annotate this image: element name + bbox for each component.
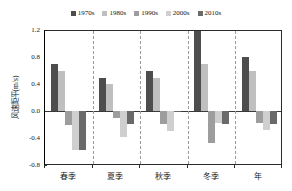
x-tick-label-秋季: 秋季 [155,170,171,181]
bar-1980s-冬季[interactable] [201,64,208,111]
bar-1980s-夏季[interactable] [106,84,113,111]
x-tick-mark [281,165,282,168]
x-tick-label-年: 年 [254,170,262,181]
x-tick-mark [187,165,188,168]
bar-slot [160,31,167,164]
bar-1970s-夏季[interactable] [99,78,106,111]
bar-1990s-冬季[interactable] [208,111,215,144]
chart-legend: 1970s1980s1990s2000s2010s [0,7,292,19]
bar-slot [58,31,65,164]
bar-slot [194,31,201,164]
bar-slot [215,31,222,164]
bar-slot [256,31,263,164]
bar-slot [242,31,249,164]
legend-label: 2010s [205,10,222,17]
legend-swatch-icon [134,11,139,16]
bar-1970s-春季[interactable] [51,64,58,111]
bar-2000s-冬季[interactable] [215,111,222,123]
bar-2000s-夏季[interactable] [120,111,127,138]
plot-inner [45,31,281,164]
bar-2010s-年[interactable] [270,111,277,124]
y-tick-label: 0.0 [16,108,40,115]
x-tick-label-春季: 春季 [60,170,76,181]
bar-slot [51,31,58,164]
legend-swatch-icon [198,11,203,16]
legend-label: 1990s [141,10,158,17]
bar-1990s-年[interactable] [256,111,263,124]
legend-item-2010s[interactable]: 2010s [198,10,222,17]
y-tick-label: -0.4 [16,135,40,142]
bar-slot [146,31,153,164]
bar-slot [127,31,134,164]
x-tick-mark [44,165,45,168]
bar-1970s-秋季[interactable] [146,71,153,111]
bar-1990s-春季[interactable] [65,111,72,125]
bar-1980s-春季[interactable] [58,71,65,111]
bar-2000s-春季[interactable] [72,111,79,150]
bar-group-冬季 [188,31,236,164]
x-tick-mark [234,165,235,168]
bar-1970s-年[interactable] [242,57,249,111]
bar-2010s-冬季[interactable] [222,111,229,124]
x-tick-mark [139,165,140,168]
y-tick-label: -0.8 [16,162,40,169]
bar-2010s-夏季[interactable] [127,111,134,124]
legend-swatch-icon [71,11,76,16]
bar-2000s-秋季[interactable] [167,111,174,131]
bar-group-夏季 [93,31,141,164]
legend-item-1990s[interactable]: 1990s [134,10,158,17]
legend-swatch-icon [166,11,171,16]
bar-slot [113,31,120,164]
bar-group-秋季 [140,31,188,164]
legend-label: 1980s [109,10,126,17]
bar-slot [270,31,277,164]
legend-label: 1970s [78,10,95,17]
bar-slot [249,31,256,164]
bar-slot [79,31,86,164]
legend-item-2000s[interactable]: 2000s [166,10,190,17]
bar-1980s-秋季[interactable] [153,78,160,111]
bar-slot [153,31,160,164]
bar-slot [201,31,208,164]
bar-2010s-秋季[interactable] [174,111,181,112]
y-tick-label: 1.2 [16,27,40,34]
legend-swatch-icon [102,11,107,16]
bar-slot [65,31,72,164]
bar-slot [99,31,106,164]
bar-2000s-年[interactable] [263,111,270,130]
x-axis-tick-marks [44,165,282,169]
bar-2010s-春季[interactable] [79,111,86,150]
bar-slot [120,31,127,164]
bar-slot [222,31,229,164]
bar-1990s-秋季[interactable] [160,111,167,124]
legend-item-1970s[interactable]: 1970s [71,10,95,17]
bar-slot [167,31,174,164]
bar-slot [208,31,215,164]
x-tick-label-夏季: 夏季 [107,170,123,181]
legend-item-1980s[interactable]: 1980s [102,10,126,17]
x-tick-label-冬季: 冬季 [203,170,219,181]
y-tick-label: 0.4 [16,81,40,88]
bar-slot [174,31,181,164]
x-axis-tick-labels: 春季夏季秋季冬季年 [44,170,282,186]
bar-group-春季 [45,31,93,164]
plot-area [44,30,282,165]
y-axis-tick-labels: 1.20.80.40.0-0.4-0.8 [12,30,40,165]
bar-slot [106,31,113,164]
bar-group-年 [235,31,283,164]
bar-slot [263,31,270,164]
y-tick-label: 0.8 [16,54,40,61]
legend-label: 2000s [173,10,190,17]
bar-slot [72,31,79,164]
bar-1980s-年[interactable] [249,71,256,111]
bar-1990s-夏季[interactable] [113,111,120,118]
bar-chart: 1970s1980s1990s2000s2010s 风速距平(m/s) 1.20… [0,0,292,191]
x-tick-mark [92,165,93,168]
bar-1970s-冬季[interactable] [194,31,201,111]
